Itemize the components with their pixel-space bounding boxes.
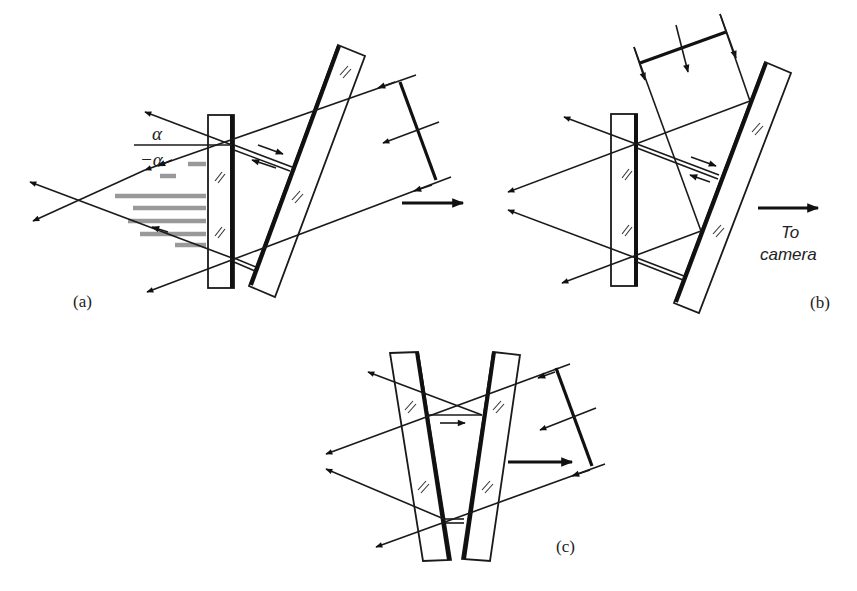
panel-a: α −α (a) xyxy=(30,45,463,311)
panel-label-c: (c) xyxy=(556,537,575,556)
to-camera-label-line2: camera xyxy=(760,245,817,264)
panel-c: (c) xyxy=(326,352,605,561)
optical-diagram: α −α (a) xyxy=(0,0,857,591)
panel-label-a: (a) xyxy=(73,292,92,311)
alpha-label: α xyxy=(152,123,163,144)
panel-label-b: (b) xyxy=(810,293,830,312)
plate-tilted xyxy=(249,45,365,297)
fringe-region xyxy=(115,164,206,245)
plate-tilted xyxy=(674,62,791,313)
panel-b: To camera (b) xyxy=(508,14,830,313)
to-camera-label-line1: To xyxy=(781,223,799,242)
